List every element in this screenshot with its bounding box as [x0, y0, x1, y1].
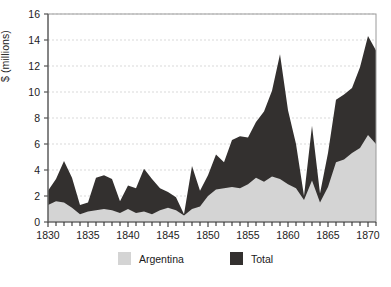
- plot-area: [0, 0, 391, 287]
- chart-figure: $ (millions) 0246810121416 1830183518401…: [0, 0, 391, 287]
- area-series-group: [48, 36, 376, 222]
